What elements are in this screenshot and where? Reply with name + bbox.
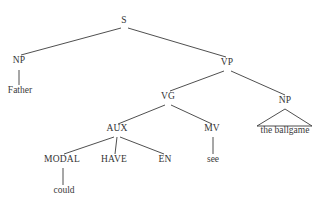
tree-node-modal: MODAL	[44, 154, 80, 164]
tree-node-mv: MV	[204, 123, 220, 133]
tree-edge-vp-np2	[231, 71, 285, 95]
terminal-node-ballg: the ballgame	[261, 125, 310, 135]
tree-node-vp: VP	[221, 57, 234, 67]
terminal-node-see: see	[207, 154, 219, 164]
terminal-node-father: Father	[8, 85, 32, 95]
terminal-node-could: could	[53, 185, 74, 195]
phrase-triangle-np2	[257, 109, 312, 126]
tree-edge-vg-mv	[171, 105, 212, 124]
tree-edge-s-vp	[128, 28, 226, 57]
tree-edge-vp-vg	[170, 71, 224, 91]
tree-node-np2: NP	[279, 95, 292, 105]
tree-node-vg: VG	[161, 91, 175, 101]
tree-edge-vg-aux	[118, 105, 165, 124]
tree-edge-s-np1	[21, 28, 121, 55]
tree-node-en: EN	[158, 154, 171, 164]
tree-node-s: S	[121, 15, 126, 25]
tree-edges-canvas	[0, 0, 324, 208]
tree-edge-aux-modal	[64, 137, 114, 154]
tree-edge-aux-have	[115, 137, 117, 154]
triangle-group	[257, 109, 312, 126]
tree-node-np1: NP	[13, 55, 26, 65]
tree-edge-aux-en	[120, 137, 164, 154]
tree-node-aux: AUX	[106, 123, 127, 133]
tree-node-have: HAVE	[101, 154, 127, 164]
